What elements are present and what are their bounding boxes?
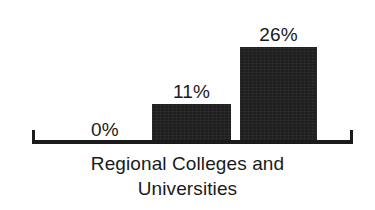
x-axis-tick-right <box>350 130 353 141</box>
x-axis-category-label-line-2: Universities <box>0 176 375 201</box>
bar-value-label-1: 11% <box>152 82 231 101</box>
x-axis-category-label-line-1: Regional Colleges and <box>0 151 375 176</box>
bar-2[interactable] <box>240 47 317 142</box>
x-axis-tick-left <box>32 130 35 141</box>
bar-chart-figure: 0% 11% 26% Regional Colleges and Univers… <box>0 0 375 210</box>
bar-value-label-0: 0% <box>65 120 145 139</box>
plot-area: 0% 11% 26% <box>0 0 375 150</box>
bar-1[interactable] <box>152 104 231 142</box>
x-axis-category-label: Regional Colleges and Universities <box>0 151 375 201</box>
x-axis-baseline <box>32 140 353 144</box>
bar-value-label-2: 26% <box>240 25 317 44</box>
